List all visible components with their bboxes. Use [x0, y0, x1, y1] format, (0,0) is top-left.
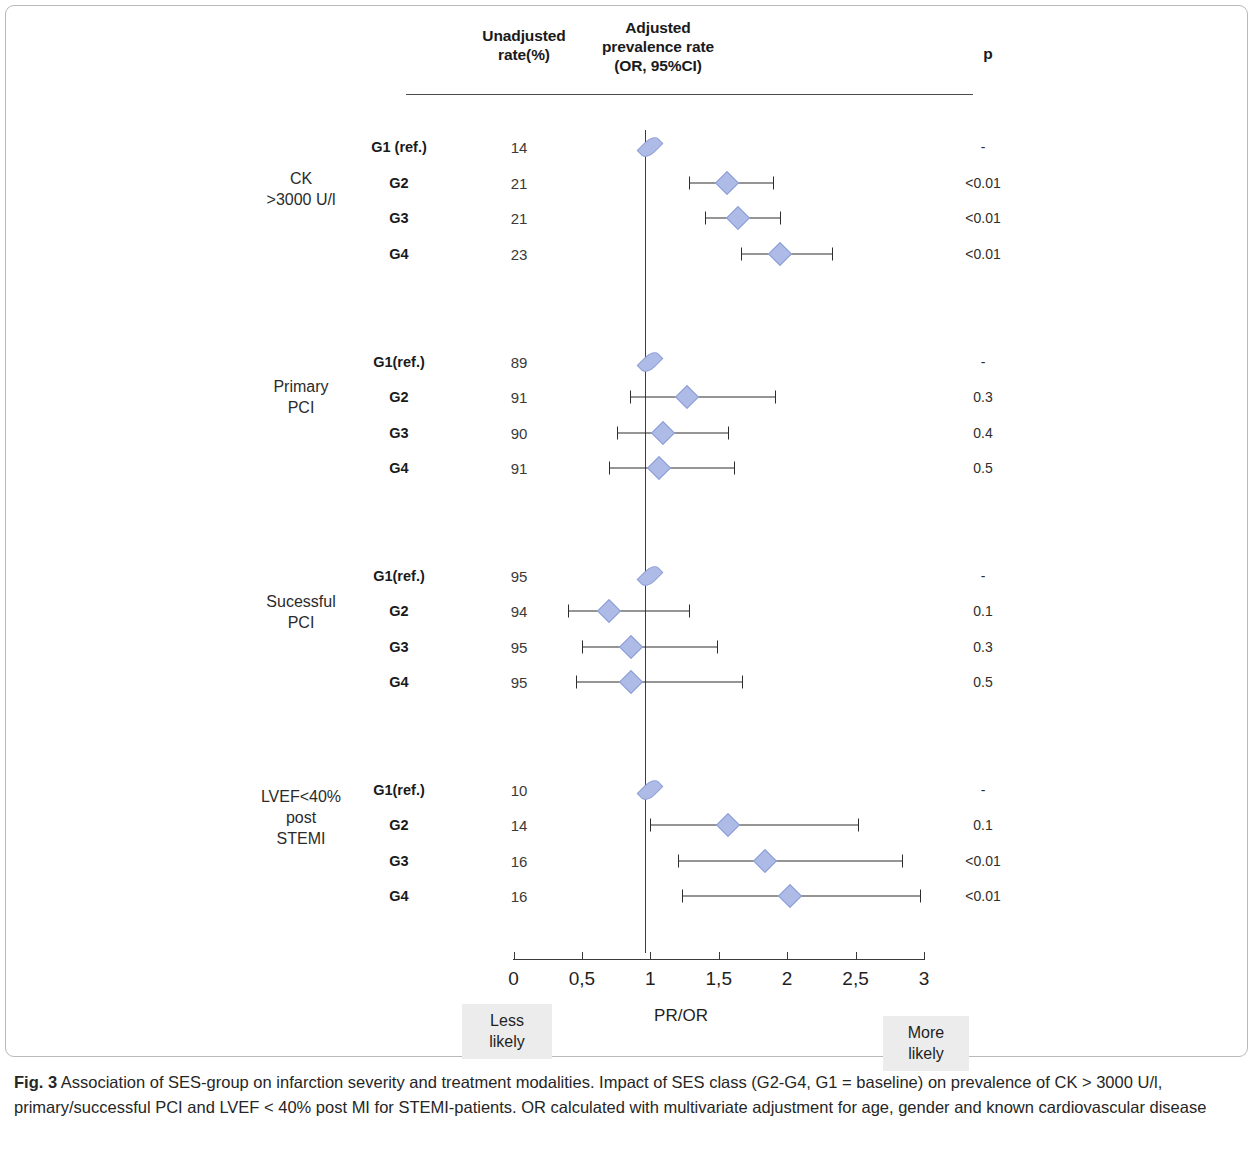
confidence-interval-line: [568, 611, 688, 612]
row-group-label: G1 (ref.): [324, 139, 474, 155]
row-unadjusted-rate: 95: [474, 568, 564, 585]
figure-panel: Unadjusted rate(%) Adjusted prevalence r…: [5, 5, 1248, 1057]
header-line: Adjusted: [548, 18, 768, 37]
confidence-interval-cap: [689, 177, 690, 190]
figure-caption-text: Association of SES-group on infarction s…: [14, 1073, 1206, 1116]
confidence-interval-cap: [568, 605, 569, 618]
row-group-label: G3: [324, 639, 474, 655]
confidence-interval-cap: [630, 391, 631, 404]
x-axis-tick-label: 0,5: [552, 968, 612, 990]
row-p-value: 0.3: [928, 639, 1038, 655]
confidence-interval-cap: [773, 177, 774, 190]
point-estimate-marker: [619, 635, 643, 659]
more-likely-box: More likely: [883, 1016, 969, 1071]
row-group-label: G2: [324, 389, 474, 405]
confidence-interval-cap: [582, 641, 583, 654]
row-unadjusted-rate: 89: [474, 354, 564, 371]
header-line: (OR, 95%CI): [548, 56, 768, 75]
confidence-interval-line: [582, 647, 717, 648]
x-axis-title: PR/OR: [616, 1006, 746, 1026]
row-group-label: G4: [324, 888, 474, 904]
x-axis-tick: [650, 952, 651, 960]
header-rule: [406, 94, 973, 95]
confidence-interval-cap: [742, 676, 743, 689]
row-p-value: <0.01: [928, 175, 1038, 191]
row-p-value: 0.1: [928, 603, 1038, 619]
point-estimate-marker: [637, 134, 664, 161]
x-axis-tick-label: 0: [484, 968, 544, 990]
point-estimate-marker: [597, 599, 621, 623]
row-group-label: G1(ref.): [324, 782, 474, 798]
confidence-interval-cap: [650, 819, 651, 832]
confidence-interval-line: [576, 682, 742, 683]
row-group-label: G2: [324, 603, 474, 619]
x-axis-tick-label: 2,5: [826, 968, 886, 990]
point-estimate-marker: [637, 777, 664, 804]
row-p-value: -: [928, 568, 1038, 584]
confidence-interval-line: [630, 397, 775, 398]
confidence-interval-cap: [780, 212, 781, 225]
figure-caption: Fig. 3 Association of SES-group on infar…: [14, 1070, 1240, 1120]
row-group-label: G4: [324, 246, 474, 262]
row-group-label: G2: [324, 175, 474, 191]
point-estimate-marker: [651, 421, 675, 445]
row-unadjusted-rate: 10: [474, 782, 564, 799]
point-estimate-marker: [637, 563, 664, 590]
block-label-line: >3000 U/l: [211, 189, 391, 210]
less-likely-line: likely: [462, 1031, 552, 1052]
row-p-value: 0.3: [928, 389, 1038, 405]
point-estimate-marker: [619, 670, 643, 694]
row-unadjusted-rate: 91: [474, 389, 564, 406]
row-unadjusted-rate: 90: [474, 425, 564, 442]
row-p-value: -: [928, 139, 1038, 155]
confidence-interval-cap: [617, 427, 618, 440]
row-group-label: G4: [324, 674, 474, 690]
x-axis-tick-label: 3: [894, 968, 954, 990]
point-estimate-marker: [716, 813, 740, 837]
x-axis-tick: [719, 952, 720, 960]
x-axis-tick-label: 2: [757, 968, 817, 990]
column-header-p-value: p: [948, 44, 1028, 63]
x-axis-tick: [787, 952, 788, 960]
confidence-interval-cap: [858, 819, 859, 832]
header-line: prevalence rate: [548, 37, 768, 56]
row-unadjusted-rate: 94: [474, 603, 564, 620]
point-estimate-marker: [715, 171, 739, 195]
confidence-interval-line: [609, 468, 734, 469]
point-estimate-marker: [675, 385, 699, 409]
confidence-interval-cap: [609, 462, 610, 475]
point-estimate-marker: [768, 242, 792, 266]
row-unadjusted-rate: 95: [474, 674, 564, 691]
point-estimate-marker: [778, 884, 802, 908]
row-unadjusted-rate: 95: [474, 639, 564, 656]
confidence-interval-cap: [734, 462, 735, 475]
confidence-interval-cap: [678, 855, 679, 868]
point-estimate-marker: [753, 849, 777, 873]
forest-plot: Unadjusted rate(%) Adjusted prevalence r…: [6, 6, 1249, 1058]
row-group-label: G1(ref.): [324, 568, 474, 584]
row-p-value: -: [928, 354, 1038, 370]
confidence-interval-cap: [832, 248, 833, 261]
row-p-value: 0.1: [928, 817, 1038, 833]
row-p-value: 0.4: [928, 425, 1038, 441]
confidence-interval-cap: [728, 427, 729, 440]
confidence-interval-cap: [902, 855, 903, 868]
row-p-value: <0.01: [928, 853, 1038, 869]
less-likely-line: Less: [462, 1010, 552, 1031]
x-axis-tick-label: 1,5: [689, 968, 749, 990]
row-p-value: 0.5: [928, 460, 1038, 476]
row-unadjusted-rate: 16: [474, 888, 564, 905]
x-axis-tick-label: 1: [620, 968, 680, 990]
figure-number: Fig. 3: [14, 1073, 57, 1091]
confidence-interval-cap: [682, 890, 683, 903]
confidence-interval-line: [650, 825, 858, 826]
more-likely-line: likely: [883, 1043, 969, 1064]
x-axis-tick: [924, 952, 925, 960]
confidence-interval-cap: [717, 641, 718, 654]
x-axis-tick: [582, 952, 583, 960]
column-header-adjusted-prevalence-rate: Adjusted prevalence rate (OR, 95%CI): [548, 18, 768, 75]
row-unadjusted-rate: 21: [474, 175, 564, 192]
row-group-label: G3: [324, 425, 474, 441]
row-group-label: G3: [324, 853, 474, 869]
reference-line: [645, 130, 646, 953]
